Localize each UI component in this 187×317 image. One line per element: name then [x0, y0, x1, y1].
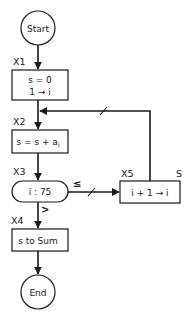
- end-node: End: [21, 275, 55, 309]
- le-condition-label: ≤: [73, 178, 81, 189]
- gt-condition-label: >: [41, 204, 49, 215]
- x4-step-label: X4: [11, 215, 24, 226]
- start-label: Start: [27, 24, 49, 34]
- x3-node: X3 i : 75: [12, 166, 68, 202]
- x1-line-2: 1 → i: [29, 87, 51, 97]
- x4-action: s to Sum: [18, 236, 58, 246]
- flowchart: Start X1 s = 0 1 → i X2 s = s + ai X3 i …: [0, 0, 187, 317]
- end-label: End: [29, 288, 46, 298]
- start-node: Start: [21, 11, 55, 45]
- x1-line-1: s = 0: [28, 75, 52, 85]
- x5-node: X5 S i + 1 → i: [120, 168, 182, 203]
- x5-corner-label: S: [176, 168, 182, 179]
- x2-expression-main: s = s + a: [16, 137, 57, 147]
- x4-node: X4 s to Sum: [11, 215, 68, 251]
- x1-node: X1 s = 0 1 → i: [12, 56, 68, 100]
- x1-step-label: X1: [13, 56, 26, 67]
- x2-node: X2 s = s + ai: [12, 116, 68, 153]
- x2-step-label: X2: [13, 116, 26, 127]
- x5-step-label: X5: [121, 168, 134, 179]
- x2-expression: s = s + ai: [16, 137, 59, 148]
- x3-condition: i : 75: [29, 187, 52, 197]
- x3-step-label: X3: [13, 166, 26, 177]
- x5-expression: i + 1 → i: [131, 188, 168, 198]
